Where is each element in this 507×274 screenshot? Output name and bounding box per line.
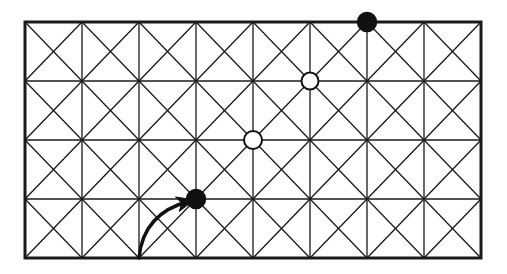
triangulated-grid-diagram xyxy=(0,0,507,274)
vertex-marker-open xyxy=(302,73,319,90)
vertex-marker-filled xyxy=(187,190,206,209)
vertex-marker-open xyxy=(244,131,262,149)
figure-root xyxy=(0,0,507,274)
vertex-marker-filled xyxy=(358,13,377,32)
